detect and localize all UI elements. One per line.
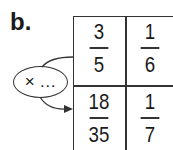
multiply-operator: × … [13, 66, 68, 98]
